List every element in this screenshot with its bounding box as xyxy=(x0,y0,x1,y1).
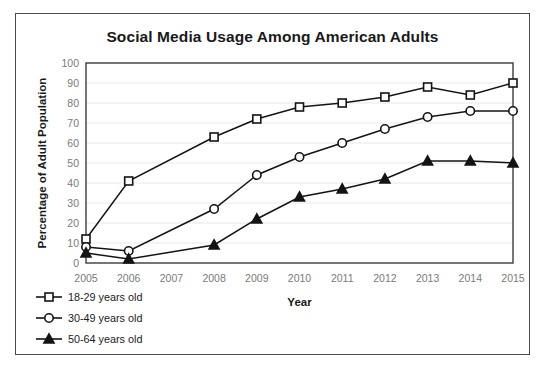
x-tick-label: 2014 xyxy=(459,272,483,284)
chart-legend: 18-29 years old30-49 years old50-64 year… xyxy=(36,291,142,345)
y-tick-label: 60 xyxy=(67,137,79,149)
data-point-marker xyxy=(82,235,90,243)
data-point-marker xyxy=(381,93,389,101)
data-point-marker xyxy=(296,103,304,111)
data-point-marker xyxy=(423,113,431,121)
x-tick-label: 2009 xyxy=(245,272,269,284)
y-axis-title: Percentage of Adult Population xyxy=(36,78,48,249)
legend-marker xyxy=(45,314,53,322)
legend-marker xyxy=(45,293,53,301)
legend-item[interactable]: 50-64 years old xyxy=(36,333,142,345)
y-tick-label: 90 xyxy=(67,77,79,89)
chart-figure-frame: Social Media Usage Among American Adults… xyxy=(15,13,530,355)
data-point-marker xyxy=(253,115,261,123)
legend-label: 18-29 years old xyxy=(68,291,142,303)
y-tick-label: 20 xyxy=(67,217,79,229)
x-axis-title: Year xyxy=(287,296,312,308)
data-point-marker xyxy=(210,133,218,141)
y-tick-label: 0 xyxy=(73,257,79,269)
y-tick-label: 100 xyxy=(61,57,79,69)
data-point-marker xyxy=(338,99,346,107)
x-tick-label: 2007 xyxy=(160,272,184,284)
x-tick-label: 2015 xyxy=(501,272,525,284)
x-tick-label: 2008 xyxy=(202,272,226,284)
data-point-marker xyxy=(252,214,262,223)
y-tick-label: 70 xyxy=(67,117,79,129)
data-point-marker xyxy=(209,240,219,249)
data-point-marker xyxy=(509,79,517,87)
legend-label: 50-64 years old xyxy=(68,333,142,345)
legend-item[interactable]: 18-29 years old xyxy=(36,291,142,303)
y-tick-label: 30 xyxy=(67,197,79,209)
y-tick-label: 80 xyxy=(67,97,79,109)
series-2 xyxy=(82,107,517,255)
y-tick-label: 10 xyxy=(67,237,79,249)
data-point-marker xyxy=(466,91,474,99)
y-tick-label: 40 xyxy=(67,177,79,189)
x-axis-tick-labels: 2005200620072008200920102011201220132014… xyxy=(74,272,525,284)
data-point-marker xyxy=(210,205,218,213)
data-point-marker xyxy=(466,107,474,115)
x-tick-label: 2010 xyxy=(288,272,312,284)
x-tick-label: 2006 xyxy=(117,272,141,284)
data-point-marker xyxy=(381,125,389,133)
y-axis-tick-labels: 0102030405060708090100 xyxy=(61,57,79,269)
legend-item[interactable]: 30-49 years old xyxy=(36,312,142,324)
data-point-marker xyxy=(253,171,261,179)
data-point-marker xyxy=(295,153,303,161)
x-tick-label: 2012 xyxy=(373,272,397,284)
data-point-marker xyxy=(380,174,390,183)
y-tick-label: 50 xyxy=(67,157,79,169)
data-point-marker xyxy=(125,177,133,185)
x-tick-label: 2005 xyxy=(74,272,98,284)
data-point-marker xyxy=(509,107,517,115)
data-point-marker xyxy=(338,139,346,147)
data-point-marker xyxy=(424,83,432,91)
legend-label: 30-49 years old xyxy=(68,312,142,324)
line-chart-plot: 0102030405060708090100 20052006200720082… xyxy=(16,14,531,356)
x-tick-label: 2011 xyxy=(331,272,354,284)
data-series-group xyxy=(81,79,518,263)
x-tick-label: 2013 xyxy=(416,272,440,284)
